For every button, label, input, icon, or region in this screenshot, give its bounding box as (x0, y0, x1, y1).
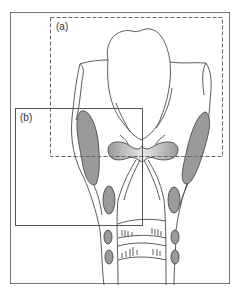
left-ring-2 (105, 250, 113, 264)
epiglottis (107, 29, 170, 140)
larynx-diagram (0, 0, 237, 289)
region-b-label: (b) (20, 112, 32, 123)
right-ring-1 (171, 230, 179, 244)
right-ring-2 (171, 250, 179, 264)
left-ring-1 (104, 230, 112, 244)
left-cartilage (77, 111, 99, 185)
region-a-label: (a) (56, 21, 68, 32)
right-arytenoid (168, 187, 180, 213)
left-arytenoid (103, 186, 115, 214)
right-cartilage (182, 112, 209, 184)
